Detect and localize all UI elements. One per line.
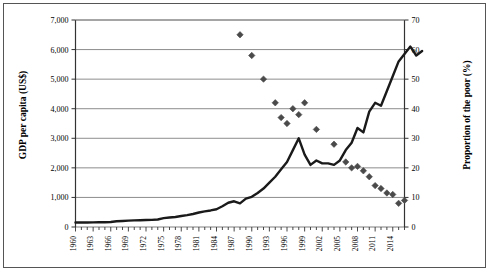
x-tick-label: 1978 bbox=[174, 236, 183, 251]
poverty-scatter-series bbox=[237, 32, 408, 207]
x-tick-label: 1963 bbox=[86, 236, 95, 251]
left-tick-label: 2,000 bbox=[51, 164, 69, 173]
gdp-per-capita-line bbox=[76, 47, 423, 223]
x-tick-label: 1960 bbox=[69, 236, 78, 251]
right-tick-label: 50 bbox=[412, 75, 420, 84]
poverty-data-point bbox=[296, 111, 302, 117]
left-tick-label: 1,000 bbox=[51, 193, 69, 202]
x-tick-label: 1975 bbox=[157, 236, 166, 251]
poverty-data-point bbox=[384, 190, 390, 196]
poverty-data-point bbox=[360, 168, 366, 174]
gridlines bbox=[76, 20, 405, 227]
left-axis-ticks: 01,0002,0003,0004,0005,0006,0007,000 bbox=[51, 16, 76, 232]
right-tick-label: 10 bbox=[412, 193, 420, 202]
x-axis-ticks: 1960196319661969197219751978198119841987… bbox=[69, 227, 405, 251]
poverty-data-point bbox=[278, 114, 284, 120]
chart-figure: GDP per capita (US$) Proportion of the p… bbox=[0, 0, 489, 271]
x-tick-label: 1966 bbox=[104, 236, 113, 251]
right-tick-label: 70 bbox=[412, 16, 420, 25]
left-tick-label: 5,000 bbox=[51, 75, 69, 84]
x-tick-label: 1981 bbox=[192, 236, 201, 251]
poverty-data-point bbox=[401, 197, 407, 203]
poverty-data-point bbox=[348, 165, 354, 171]
poverty-data-point bbox=[301, 100, 307, 106]
poverty-data-point bbox=[372, 182, 378, 188]
poverty-data-point bbox=[290, 106, 296, 112]
x-tick-label: 2002 bbox=[315, 236, 324, 251]
poverty-data-point bbox=[378, 185, 384, 191]
poverty-data-point bbox=[395, 200, 401, 206]
right-tick-label: 30 bbox=[412, 134, 420, 143]
gdp-line-series bbox=[76, 47, 423, 223]
poverty-data-point bbox=[260, 76, 266, 82]
plot-area: 01,0002,0003,0004,0005,0006,0007,000 010… bbox=[0, 0, 489, 271]
left-tick-label: 4,000 bbox=[51, 105, 69, 114]
poverty-data-point bbox=[237, 32, 243, 38]
right-tick-label: 0 bbox=[412, 223, 416, 232]
x-tick-label: 1987 bbox=[227, 236, 236, 251]
x-tick-label: 1993 bbox=[262, 236, 271, 251]
poverty-data-point bbox=[331, 141, 337, 147]
axis-lines bbox=[76, 20, 405, 227]
x-tick-label: 1990 bbox=[245, 236, 254, 251]
poverty-data-point bbox=[272, 100, 278, 106]
poverty-data-point bbox=[354, 163, 360, 169]
x-tick-label: 2011 bbox=[368, 236, 377, 251]
x-tick-label: 2005 bbox=[333, 236, 342, 251]
poverty-data-point bbox=[366, 174, 372, 180]
x-tick-label: 1996 bbox=[280, 236, 289, 251]
poverty-data-point bbox=[390, 191, 396, 197]
x-tick-label: 2014 bbox=[386, 236, 395, 251]
left-tick-label: 7,000 bbox=[51, 16, 69, 25]
poverty-data-point bbox=[249, 52, 255, 58]
x-tick-label: 2008 bbox=[351, 236, 360, 251]
poverty-data-point bbox=[313, 126, 319, 132]
left-tick-label: 3,000 bbox=[51, 134, 69, 143]
right-tick-label: 20 bbox=[412, 164, 420, 173]
x-tick-label: 1984 bbox=[210, 236, 219, 251]
poverty-data-point bbox=[343, 159, 349, 165]
left-tick-label: 6,000 bbox=[51, 46, 69, 55]
x-tick-label: 1972 bbox=[139, 236, 148, 251]
right-tick-label: 40 bbox=[412, 105, 420, 114]
x-tick-label: 1999 bbox=[298, 236, 307, 251]
x-tick-label: 1969 bbox=[121, 236, 130, 251]
left-tick-label: 0 bbox=[65, 223, 69, 232]
poverty-data-point bbox=[284, 120, 290, 126]
